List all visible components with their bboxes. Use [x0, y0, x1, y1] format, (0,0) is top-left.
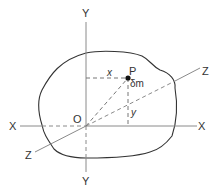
z-axis-upper-label: Z: [202, 65, 209, 77]
z-axis-upper: [175, 68, 200, 81]
y-axis-top-label: Y: [82, 7, 90, 19]
origin-label: O: [73, 113, 82, 125]
z-axis-lower-label: Z: [25, 149, 32, 161]
x-distance-label: x: [106, 67, 113, 78]
x-axis-left-label: X: [9, 120, 17, 132]
mass-label: δm: [130, 78, 144, 89]
x-axis-right-label: X: [198, 120, 206, 132]
z-axis-lower: [35, 126, 86, 152]
op-line: [86, 78, 128, 126]
point-label: P: [129, 65, 136, 77]
y-distance-label: y: [130, 107, 137, 118]
diagram-canvas: Y Y X X Z Z O P δm x y: [0, 0, 215, 188]
y-axis-bottom-label: Y: [82, 175, 90, 187]
